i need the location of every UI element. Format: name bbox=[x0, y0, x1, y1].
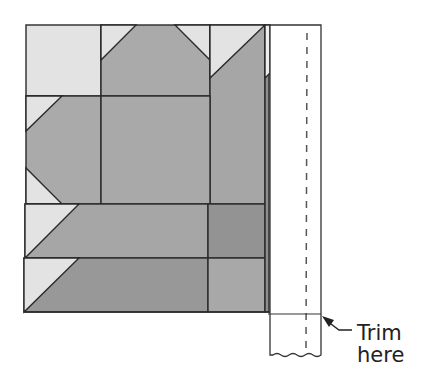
quilt-block bbox=[24, 25, 270, 312]
center-square bbox=[101, 96, 210, 204]
trim-annotation: Trim here bbox=[322, 316, 404, 367]
top-left-light-square bbox=[26, 25, 101, 96]
quilt-trim-diagram: Trim here bbox=[0, 0, 424, 384]
row4-right-square bbox=[208, 258, 265, 312]
annotation-trim-label: Trim bbox=[356, 321, 402, 345]
thin-strip-light-top bbox=[265, 25, 270, 78]
seam-guide-line bbox=[306, 33, 307, 350]
annotation-here-label: here bbox=[357, 343, 404, 367]
row3-right-square bbox=[208, 204, 265, 258]
border-strip-outline bbox=[270, 25, 321, 357]
